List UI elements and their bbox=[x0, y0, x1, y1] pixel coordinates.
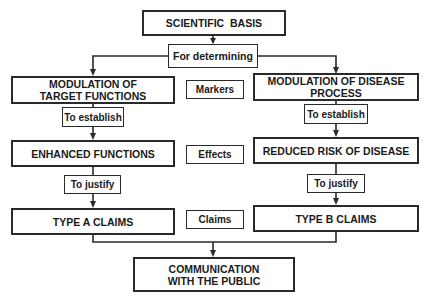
scientific-basis-label: SCIENTIFIC BASIS bbox=[166, 17, 262, 29]
reduced-risk-label: REDUCED RISK OF DISEASE bbox=[263, 145, 409, 157]
enhanced-functions-label: ENHANCED FUNCTIONS bbox=[31, 148, 155, 160]
modulation-disease-process-node: MODULATION OF DISEASE PROCESS bbox=[253, 73, 419, 101]
node-line-1: MODULATION OF bbox=[49, 78, 137, 90]
scientific-basis-node: SCIENTIFIC BASIS bbox=[142, 10, 286, 36]
for-determining-text: For determining bbox=[173, 50, 253, 62]
to-justify-text: To justify bbox=[314, 178, 358, 189]
right-to-establish-label: To establish bbox=[304, 104, 368, 124]
claims-row-label: Claims bbox=[186, 210, 244, 229]
node-line-2: TARGET FUNCTIONS bbox=[40, 90, 147, 102]
effects-row-label: Effects bbox=[186, 145, 244, 164]
left-to-establish-label: To establish bbox=[62, 107, 124, 127]
to-justify-text: To justify bbox=[71, 179, 115, 190]
type-a-claims-node: TYPE A CLAIMS bbox=[11, 208, 175, 235]
markers-row-label: Markers bbox=[186, 80, 244, 99]
node-line-1: COMMUNICATION bbox=[169, 263, 260, 275]
right-to-justify-label: To justify bbox=[307, 174, 365, 193]
left-to-justify-label: To justify bbox=[64, 175, 121, 194]
type-a-claims-label: TYPE A CLAIMS bbox=[53, 216, 133, 228]
to-establish-text: To establish bbox=[307, 109, 365, 120]
claims-text: Claims bbox=[199, 214, 232, 225]
type-b-claims-label: TYPE B CLAIMS bbox=[295, 213, 376, 225]
enhanced-functions-node: ENHANCED FUNCTIONS bbox=[11, 140, 175, 167]
node-line-2: WITH THE PUBLIC bbox=[168, 275, 261, 287]
to-establish-text: To establish bbox=[64, 112, 122, 123]
modulation-target-functions-node: MODULATION OF TARGET FUNCTIONS bbox=[11, 76, 175, 104]
effects-text: Effects bbox=[198, 149, 231, 160]
reduced-risk-of-disease-node: REDUCED RISK OF DISEASE bbox=[253, 137, 419, 164]
for-determining-label: For determining bbox=[168, 44, 258, 68]
type-b-claims-node: TYPE B CLAIMS bbox=[253, 205, 419, 232]
communication-with-public-node: COMMUNICATION WITH THE PUBLIC bbox=[133, 257, 295, 292]
markers-text: Markers bbox=[196, 84, 234, 95]
node-line-2: PROCESS bbox=[310, 87, 361, 99]
node-line-1: MODULATION OF DISEASE bbox=[268, 75, 405, 87]
